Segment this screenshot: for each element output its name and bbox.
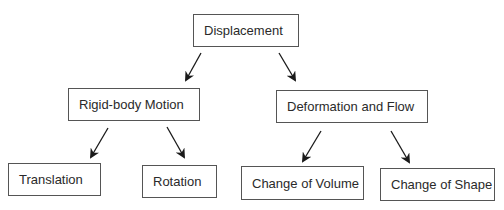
node-label: Displacement	[204, 23, 283, 38]
arrow-deformation-to-volume	[303, 131, 321, 161]
node-change-of-volume: Change of Volume	[241, 166, 364, 200]
node-label: Translation	[19, 172, 83, 187]
arrow-rigid-to-rotation	[167, 127, 184, 157]
node-deformation-and-flow: Deformation and Flow	[276, 90, 428, 123]
node-translation: Translation	[8, 163, 101, 196]
node-displacement: Displacement	[193, 14, 299, 47]
arrow-deformation-to-shape	[391, 131, 409, 162]
node-label: Rotation	[153, 174, 201, 189]
arrow-displacement-to-rigid	[186, 53, 201, 80]
node-label: Rigid-body Motion	[79, 97, 184, 112]
node-label: Change of Shape	[391, 177, 492, 192]
node-rotation: Rotation	[142, 165, 217, 198]
arrow-rigid-to-translation	[91, 128, 108, 157]
node-change-of-shape: Change of Shape	[380, 168, 495, 201]
node-label: Change of Volume	[252, 176, 359, 191]
node-rigid-body-motion: Rigid-body Motion	[68, 88, 200, 121]
arrow-displacement-to-deformation	[279, 53, 295, 80]
node-label: Deformation and Flow	[287, 99, 414, 114]
